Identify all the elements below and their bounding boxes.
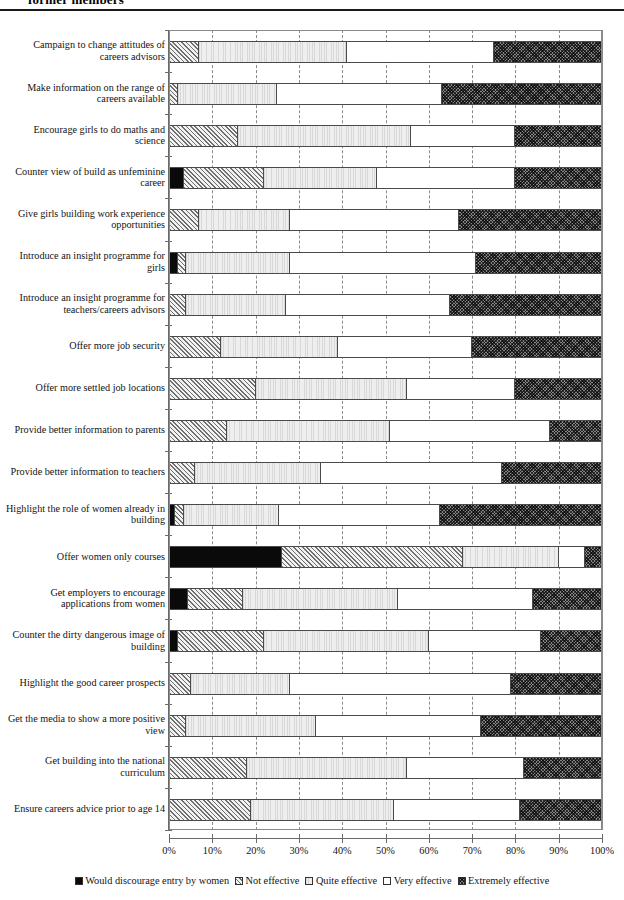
stacked-bar[interactable] xyxy=(169,799,602,821)
segment-would-discourage[interactable] xyxy=(169,546,282,568)
segment-very-effective[interactable] xyxy=(411,125,515,147)
segment-extremely-effective[interactable] xyxy=(585,546,602,568)
segment-not-effective[interactable] xyxy=(169,462,195,484)
legend-item-extremely[interactable]: Extremely effective xyxy=(458,875,550,886)
stacked-bar[interactable] xyxy=(169,294,602,316)
segment-extremely-effective[interactable] xyxy=(515,378,602,400)
segment-very-effective[interactable] xyxy=(279,504,439,526)
segment-very-effective[interactable] xyxy=(321,462,503,484)
segment-extremely-effective[interactable] xyxy=(502,462,602,484)
segment-extremely-effective[interactable] xyxy=(520,799,602,821)
segment-extremely-effective[interactable] xyxy=(450,294,602,316)
segment-extremely-effective[interactable] xyxy=(533,588,602,610)
segment-very-effective[interactable] xyxy=(316,715,481,737)
segment-extremely-effective[interactable] xyxy=(481,715,602,737)
legend-item-discourage[interactable]: Would discourage entry by women xyxy=(75,875,229,886)
stacked-bar[interactable] xyxy=(169,83,602,105)
segment-not-effective[interactable] xyxy=(184,167,264,189)
segment-not-effective[interactable] xyxy=(169,673,191,695)
segment-quite-effective[interactable] xyxy=(195,462,321,484)
legend-item-quite[interactable]: Quite effective xyxy=(305,875,377,886)
segment-quite-effective[interactable] xyxy=(178,83,278,105)
segment-extremely-effective[interactable] xyxy=(472,336,602,358)
segment-extremely-effective[interactable] xyxy=(476,252,602,274)
segment-very-effective[interactable] xyxy=(407,757,524,779)
segment-very-effective[interactable] xyxy=(429,630,542,652)
segment-very-effective[interactable] xyxy=(286,294,451,316)
segment-quite-effective[interactable] xyxy=(186,294,286,316)
segment-not-effective[interactable] xyxy=(169,83,178,105)
segment-very-effective[interactable] xyxy=(290,673,511,695)
stacked-bar[interactable] xyxy=(169,673,602,695)
segment-would-discourage[interactable] xyxy=(169,167,184,189)
stacked-bar[interactable] xyxy=(169,715,602,737)
stacked-bar[interactable] xyxy=(169,462,602,484)
segment-very-effective[interactable] xyxy=(559,546,585,568)
segment-very-effective[interactable] xyxy=(407,378,515,400)
segment-not-effective[interactable] xyxy=(169,294,186,316)
stacked-bar[interactable] xyxy=(169,546,602,568)
segment-very-effective[interactable] xyxy=(338,336,472,358)
stacked-bar[interactable] xyxy=(169,420,602,442)
stacked-bar[interactable] xyxy=(169,252,602,274)
segment-quite-effective[interactable] xyxy=(186,252,290,274)
segment-would-discourage[interactable] xyxy=(169,252,178,274)
segment-quite-effective[interactable] xyxy=(256,378,408,400)
segment-extremely-effective[interactable] xyxy=(442,83,602,105)
segment-quite-effective[interactable] xyxy=(191,673,291,695)
segment-extremely-effective[interactable] xyxy=(515,125,602,147)
segment-extremely-effective[interactable] xyxy=(550,420,602,442)
segment-very-effective[interactable] xyxy=(390,420,550,442)
segment-extremely-effective[interactable] xyxy=(515,167,602,189)
segment-not-effective[interactable] xyxy=(188,588,242,610)
segment-not-effective[interactable] xyxy=(169,757,247,779)
segment-not-effective[interactable] xyxy=(169,336,221,358)
segment-very-effective[interactable] xyxy=(277,83,442,105)
segment-quite-effective[interactable] xyxy=(243,588,399,610)
segment-quite-effective[interactable] xyxy=(247,757,407,779)
segment-very-effective[interactable] xyxy=(290,252,476,274)
segment-not-effective[interactable] xyxy=(169,209,199,231)
stacked-bar[interactable] xyxy=(169,630,602,652)
stacked-bar[interactable] xyxy=(169,125,602,147)
segment-quite-effective[interactable] xyxy=(251,799,394,821)
segment-extremely-effective[interactable] xyxy=(524,757,602,779)
segment-not-effective[interactable] xyxy=(178,630,265,652)
segment-very-effective[interactable] xyxy=(394,799,520,821)
segment-very-effective[interactable] xyxy=(347,41,494,63)
segment-very-effective[interactable] xyxy=(377,167,516,189)
segment-extremely-effective[interactable] xyxy=(459,209,602,231)
segment-would-discourage[interactable] xyxy=(169,588,188,610)
segment-not-effective[interactable] xyxy=(169,799,251,821)
stacked-bar[interactable] xyxy=(169,209,602,231)
segment-quite-effective[interactable] xyxy=(221,336,338,358)
segment-not-effective[interactable] xyxy=(169,420,227,442)
stacked-bar[interactable] xyxy=(169,167,602,189)
segment-very-effective[interactable] xyxy=(398,588,532,610)
stacked-bar[interactable] xyxy=(169,336,602,358)
segment-not-effective[interactable] xyxy=(178,252,187,274)
segment-quite-effective[interactable] xyxy=(199,209,290,231)
segment-extremely-effective[interactable] xyxy=(511,673,602,695)
stacked-bar[interactable] xyxy=(169,378,602,400)
segment-quite-effective[interactable] xyxy=(238,125,411,147)
segment-extremely-effective[interactable] xyxy=(440,504,602,526)
segment-quite-effective[interactable] xyxy=(463,546,558,568)
segment-would-discourage[interactable] xyxy=(169,630,178,652)
segment-not-effective[interactable] xyxy=(175,504,184,526)
segment-quite-effective[interactable] xyxy=(227,420,389,442)
segment-quite-effective[interactable] xyxy=(264,630,429,652)
segment-quite-effective[interactable] xyxy=(264,167,377,189)
segment-very-effective[interactable] xyxy=(290,209,459,231)
segment-extremely-effective[interactable] xyxy=(541,630,602,652)
segment-not-effective[interactable] xyxy=(169,715,186,737)
segment-not-effective[interactable] xyxy=(169,41,199,63)
stacked-bar[interactable] xyxy=(169,41,602,63)
segment-not-effective[interactable] xyxy=(169,125,238,147)
stacked-bar[interactable] xyxy=(169,588,602,610)
legend-item-very[interactable]: Very effective xyxy=(383,875,451,886)
legend-item-not[interactable]: Not effective xyxy=(235,875,299,886)
stacked-bar[interactable] xyxy=(169,504,602,526)
segment-extremely-effective[interactable] xyxy=(494,41,602,63)
segment-quite-effective[interactable] xyxy=(199,41,346,63)
